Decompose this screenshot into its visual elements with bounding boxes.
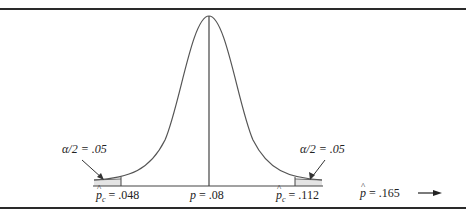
right-critical-label: pc = .112: [276, 188, 319, 207]
center-value: = .08: [196, 188, 224, 202]
observed-label: p = .165: [360, 186, 400, 200]
right-tail-label: α/2 = .05: [300, 142, 345, 156]
center-label: p = .08: [190, 188, 224, 202]
right-tail-pointer: [312, 160, 325, 177]
right-critical-value: = .112: [286, 188, 319, 202]
right-tail-shade: [295, 180, 322, 186]
normal-curve: [94, 16, 322, 180]
left-tail-label: α/2 = .05: [62, 142, 107, 156]
left-critical-label: pc = .048: [96, 188, 139, 207]
observed-value: = .165: [366, 186, 400, 200]
normal-curve-diagram: [0, 0, 466, 213]
right-arrow-icon: [433, 190, 442, 196]
left-critical-value: = .048: [106, 188, 140, 202]
